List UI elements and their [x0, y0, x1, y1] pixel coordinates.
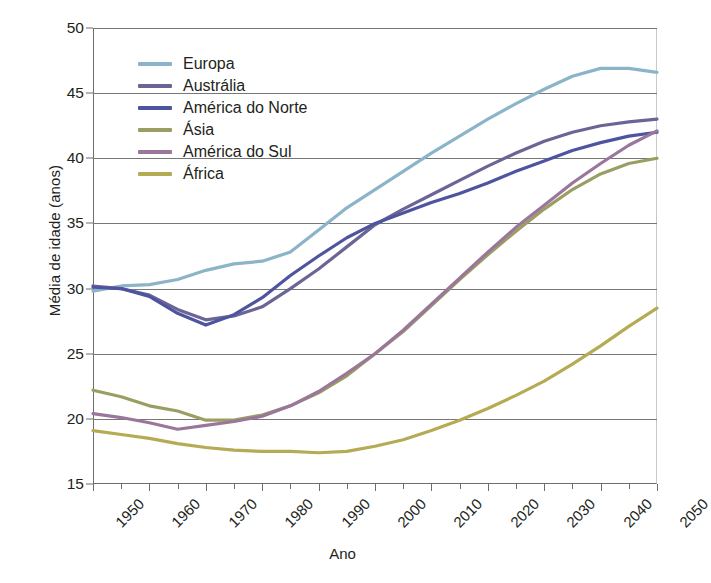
y-axis-title: Média de idade (anos) [46, 91, 63, 391]
x-tick-label: 1970 [225, 495, 261, 531]
x-tick-label: 2040 [619, 495, 655, 531]
y-tick-label: 35 [67, 214, 84, 232]
y-tick-label: 25 [67, 345, 84, 363]
legend-label: América do Sul [183, 144, 292, 160]
legend-label: América do Norte [183, 100, 308, 116]
legend-item[interactable]: América do Sul [138, 141, 308, 163]
y-tick-mark [86, 418, 93, 419]
x-tick-label: 1960 [168, 495, 204, 531]
x-minor-tick-mark [460, 484, 461, 489]
y-tick-label: 40 [67, 149, 84, 167]
x-axis-title: Ano [0, 545, 685, 562]
x-tick-mark [262, 484, 263, 491]
x-tick-label: 2010 [450, 495, 486, 531]
x-tick-mark [601, 484, 602, 491]
legend-label: África [183, 166, 224, 182]
legend-item[interactable]: África [138, 163, 308, 185]
x-tick-label: 2020 [507, 495, 543, 531]
x-tick-mark [544, 484, 545, 491]
legend-swatch [138, 106, 172, 110]
legend-label: Europa [183, 56, 235, 72]
x-tick-label: 1950 [112, 495, 148, 531]
x-minor-tick-mark [234, 484, 235, 489]
y-tick-label: 15 [67, 475, 84, 493]
legend-item[interactable]: Ásia [138, 119, 308, 141]
x-tick-mark [319, 484, 320, 491]
x-minor-tick-mark [178, 484, 179, 489]
y-tick-mark [86, 93, 93, 94]
x-tick-mark [488, 484, 489, 491]
legend-swatch [138, 150, 172, 154]
legend-item[interactable]: Austrália [138, 75, 308, 97]
y-tick-mark [86, 158, 93, 159]
legend-label: Austrália [183, 78, 245, 94]
legend-item[interactable]: Europa [138, 53, 308, 75]
y-tick-label: 50 [67, 19, 84, 37]
y-tick-mark [86, 28, 93, 29]
x-tick-mark [375, 484, 376, 491]
legend-swatch [138, 84, 172, 88]
x-minor-tick-mark [403, 484, 404, 489]
x-tick-mark [657, 484, 658, 491]
y-tick-mark [86, 223, 93, 224]
series-line [93, 158, 657, 420]
series-line [93, 308, 657, 453]
legend-swatch [138, 128, 172, 132]
y-tick-label: 45 [67, 84, 84, 102]
y-tick-label: 30 [67, 280, 84, 298]
x-minor-tick-mark [290, 484, 291, 489]
x-tick-label: 2050 [676, 495, 711, 531]
x-minor-tick-mark [572, 484, 573, 489]
x-tick-mark [206, 484, 207, 491]
y-tick-mark [86, 353, 93, 354]
legend: EuropaAustráliaAmérica do NorteÁsiaAméri… [138, 53, 308, 185]
x-minor-tick-mark [516, 484, 517, 489]
x-tick-mark [149, 484, 150, 491]
x-tick-label: 2000 [394, 495, 430, 531]
y-tick-label: 20 [67, 410, 84, 428]
y-tick-mark [86, 484, 93, 485]
x-minor-tick-mark [121, 484, 122, 489]
x-tick-mark [93, 484, 94, 491]
x-minor-tick-mark [629, 484, 630, 489]
legend-swatch [138, 62, 172, 66]
x-tick-label: 2030 [563, 495, 599, 531]
x-tick-label: 1980 [281, 495, 317, 531]
legend-item[interactable]: América do Norte [138, 97, 308, 119]
legend-label: Ásia [183, 122, 214, 138]
x-tick-label: 1990 [337, 495, 373, 531]
legend-swatch [138, 172, 172, 176]
x-tick-mark [431, 484, 432, 491]
x-minor-tick-mark [347, 484, 348, 489]
